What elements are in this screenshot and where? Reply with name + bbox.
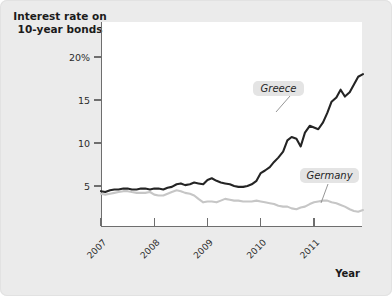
plot-area-background — [101, 22, 362, 227]
y-tick-label: 20% — [69, 52, 90, 63]
chart-svg: Interest rate on 10-year bonds 5101520% … — [0, 0, 392, 296]
y-axis-ticks: 5101520% — [69, 52, 101, 192]
chart-title-line2: 10-year bonds — [18, 23, 103, 35]
x-tick-label: 2010 — [245, 237, 268, 260]
x-tick-label: 2008 — [138, 237, 161, 260]
chart-title-line1: Interest rate on — [13, 10, 107, 22]
x-tick-label: 2007 — [85, 237, 108, 260]
y-tick-label: 15 — [78, 95, 90, 106]
x-tick-label: 2009 — [192, 237, 215, 260]
greece-callout-label: Greece — [261, 83, 297, 94]
x-tick-label: 2011 — [298, 237, 321, 260]
y-tick-label: 10 — [78, 138, 90, 149]
y-tick-label: 5 — [84, 181, 90, 192]
chart-figure: Interest rate on 10-year bonds 5101520% … — [0, 0, 392, 296]
x-axis-title: Year — [334, 268, 360, 279]
germany-callout-label: Germany — [306, 170, 353, 181]
